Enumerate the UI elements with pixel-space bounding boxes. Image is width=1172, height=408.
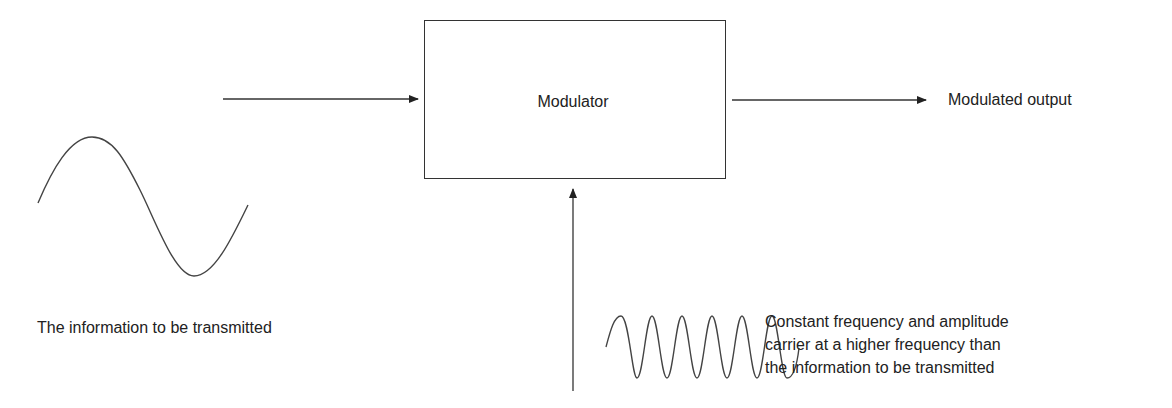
modulated-output-label: Modulated output <box>948 88 1072 111</box>
modulator-label: Modulator <box>421 93 725 111</box>
carrier-label-line-3: the information to be transmitted <box>765 356 1165 379</box>
carrier-label-line-1: Constant frequency and amplitude <box>765 310 1165 333</box>
carrier-label-line-2: carrier at a higher frequency than <box>765 333 1165 356</box>
information-signal-label: The information to be transmitted <box>37 316 272 339</box>
information-sine-wave-icon <box>38 137 248 276</box>
modulator-block: Modulator <box>424 20 726 179</box>
carrier-signal-label: Constant frequency and amplitude carrier… <box>765 310 1165 379</box>
